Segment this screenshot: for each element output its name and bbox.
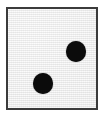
die-pip-top-right bbox=[66, 41, 86, 62]
die-pip-bottom-left bbox=[33, 73, 53, 94]
die-face[interactable] bbox=[6, 7, 98, 110]
die-value-label: 2 bbox=[0, 0, 1, 1]
die-canvas: 2 bbox=[0, 0, 105, 116]
